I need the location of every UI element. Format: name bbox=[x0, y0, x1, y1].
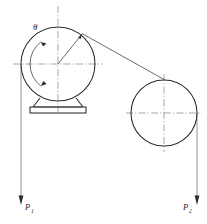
left-force-label: P bbox=[24, 202, 30, 212]
angle-label: θ bbox=[33, 22, 38, 32]
right-pulley-group bbox=[126, 74, 202, 152]
left-force-group: P 1 bbox=[19, 64, 34, 214]
left-pulley-group: θ bbox=[13, 6, 103, 113]
right-force-group: P 2 bbox=[182, 113, 199, 214]
right-force-subscript: 2 bbox=[189, 208, 192, 214]
left-force-subscript: 1 bbox=[31, 208, 34, 214]
technical-drawing-figure: θ P 1 P 2 bbox=[0, 0, 207, 224]
theta-arc-arrowhead-bottom bbox=[41, 81, 47, 86]
right-force-label: P bbox=[182, 202, 188, 212]
right-force-arrowhead bbox=[195, 196, 200, 206]
left-force-arrowhead bbox=[19, 196, 24, 206]
theta-arc-arrowhead-top bbox=[41, 42, 47, 47]
diagram-canvas: θ P 1 P 2 bbox=[0, 0, 207, 224]
radius-arrow-line bbox=[58, 36, 81, 64]
